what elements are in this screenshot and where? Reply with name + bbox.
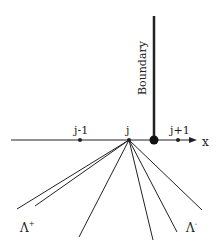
ray-5: [129, 140, 177, 232]
ray-2: [35, 140, 129, 206]
ray-1: [17, 140, 129, 209]
grid-point-j-minus-1: [78, 138, 82, 142]
lambda-minus-label: Λ-: [185, 220, 198, 235]
ray-4: [129, 140, 153, 240]
boundary-point: [150, 136, 159, 145]
x-axis-arrow-icon: [189, 137, 197, 143]
boundary-label: Boundary: [136, 40, 149, 95]
grid-point-j-plus-1: [176, 138, 180, 142]
characteristic-rays: [17, 140, 202, 240]
x-axis-label: x: [202, 135, 209, 149]
ray-6: [129, 140, 202, 210]
lambda-plus-label: Λ+: [19, 220, 35, 235]
ray-3: [79, 140, 129, 237]
grid-label-j: j: [124, 124, 129, 137]
characteristics-diagram: x Boundary j-1 j j+1 Λ+ Λ-: [0, 0, 220, 240]
grid-label-j-plus-1: j+1: [168, 124, 190, 137]
grid-label-j-minus-1: j-1: [72, 124, 88, 137]
